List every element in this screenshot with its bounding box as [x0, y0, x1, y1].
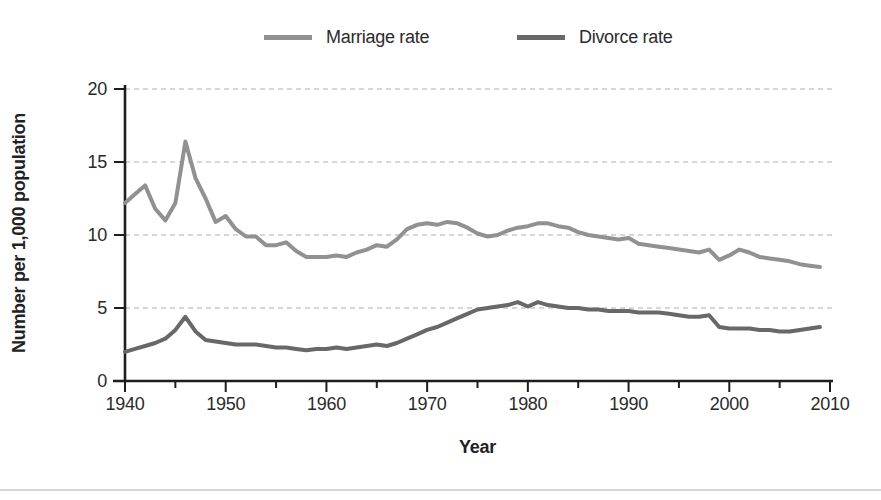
- chart-plot-area: 0510152019401950196019701980199020002010: [0, 0, 881, 480]
- x-tick-label-1980: 1980: [508, 394, 547, 414]
- x-tick-label-2010: 2010: [811, 394, 850, 414]
- x-tick-label-2000: 2000: [710, 394, 749, 414]
- y-tick-label-15: 15: [88, 152, 108, 172]
- y-tick-label-5: 5: [97, 298, 107, 318]
- y-tick-label-20: 20: [88, 79, 108, 99]
- x-tick-label-1940: 1940: [106, 394, 145, 414]
- x-tick-label-1990: 1990: [609, 394, 648, 414]
- y-tick-label-10: 10: [88, 225, 108, 245]
- x-axis-title: Year: [427, 437, 528, 458]
- y-tick-label-0: 0: [97, 371, 107, 391]
- marriage-divorce-rate-chart: Marriage rate Divorce rate Number per 1,…: [0, 0, 881, 500]
- x-tick-label-1960: 1960: [307, 394, 346, 414]
- x-tick-label-1950: 1950: [206, 394, 245, 414]
- page-divider-rule: [0, 489, 881, 491]
- divorce-rate-line: [125, 302, 820, 352]
- marriage-rate-line: [125, 142, 820, 268]
- x-tick-label-1970: 1970: [408, 394, 447, 414]
